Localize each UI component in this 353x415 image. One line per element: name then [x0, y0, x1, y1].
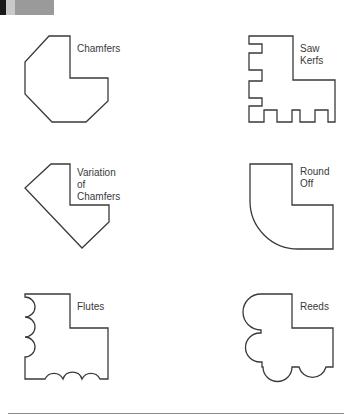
saw-kerfs-outline — [249, 36, 335, 122]
chamfers-label: Chamfers — [77, 43, 120, 54]
round-off-label: Off — [300, 178, 313, 189]
shape-saw-kerfs: Saw Kerfs — [249, 36, 335, 122]
variation-of-chamfers-label: Chamfers — [77, 191, 120, 202]
shape-flutes: Flutes — [25, 294, 108, 379]
footer-divider — [8, 413, 344, 414]
variation-of-chamfers-label: Variation — [77, 167, 116, 178]
saw-kerfs-label: Kerfs — [300, 55, 323, 66]
shape-round-off: Round Off — [250, 164, 333, 249]
flutes-label: Flutes — [77, 301, 104, 312]
shape-chamfers: Chamfers — [25, 36, 120, 122]
shape-variation-of-chamfers: Variation of Chamfers — [25, 164, 120, 248]
saw-kerfs-label: Saw — [300, 43, 320, 54]
shape-reeds: Reeds — [243, 294, 333, 382]
reeds-label: Reeds — [300, 301, 329, 312]
variation-of-chamfers-label: of — [77, 179, 86, 190]
corner-treatments-diagram: Chamfers Saw Kerfs Variation of Chamfers… — [0, 0, 353, 415]
round-off-label: Round — [300, 166, 329, 177]
